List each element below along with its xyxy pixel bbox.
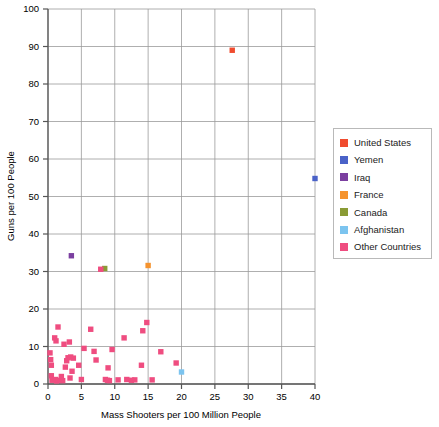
data-point [69,369,74,374]
y-tick-label: 60 [28,153,39,164]
data-point [61,342,66,347]
legend-swatch-icon [340,208,348,216]
data-point [93,357,98,362]
data-point [145,263,150,268]
data-point [63,364,68,369]
legend-swatch-icon [340,191,348,199]
data-point [67,375,72,380]
y-tick-label: 80 [28,78,39,89]
legend-item[interactable]: France [340,186,427,203]
legend-item[interactable]: Iraq [340,169,427,186]
x-tick-label: 40 [310,391,321,402]
legend-swatch-icon [340,139,348,147]
x-tick-label: 0 [45,391,50,402]
scatter-chart: 01020304050607080901000510152025303540 M… [0,0,439,427]
data-point [139,363,144,368]
data-point [149,377,154,382]
data-point [79,377,84,382]
y-tick-label: 40 [28,228,39,239]
legend-item-label: Canada [354,208,387,218]
data-point [230,48,235,53]
data-points [47,48,317,384]
data-point [105,365,110,370]
legend: United StatesYemenIraqFranceCanadaAfghan… [333,128,432,259]
data-point [67,339,72,344]
legend-item-label: Other Countries [354,242,421,252]
axis-ticks [43,9,315,389]
x-tick-label: 15 [143,391,154,402]
y-tick-label: 50 [28,191,39,202]
data-point [69,253,74,258]
x-tick-label: 35 [276,391,287,402]
data-point [107,378,112,383]
data-point [121,335,126,340]
data-point [76,363,81,368]
data-point [179,369,184,374]
data-point [312,176,317,181]
legend-item-label: Yemen [354,155,383,165]
data-point [91,349,96,354]
legend-item-label: Afghanistan [354,225,404,235]
data-point [140,328,145,333]
data-point [53,338,58,343]
data-point [109,347,114,352]
data-point [71,355,76,360]
legend-item-label: France [354,190,384,200]
data-point [88,327,93,332]
data-point [124,377,129,382]
data-point [55,324,60,329]
y-tick-label: 20 [28,303,39,314]
legend-item[interactable]: Other Countries [340,238,427,255]
data-point [49,363,54,368]
legend-swatch-icon [340,156,348,164]
y-tick-label: 100 [23,3,39,14]
legend-item[interactable]: United States [340,134,427,151]
legend-swatch-icon [340,173,348,181]
data-point [47,350,52,355]
data-point [158,349,163,354]
x-tick-label: 10 [109,391,120,402]
y-tick-label: 90 [28,41,39,52]
data-point [132,377,137,382]
legend-item[interactable]: Afghanistan [340,221,427,238]
x-tick-label: 30 [243,391,254,402]
y-tick-label: 0 [34,378,39,389]
legend-item[interactable]: Canada [340,204,427,221]
x-tick-label: 25 [210,391,221,402]
legend-swatch-icon [340,243,348,251]
data-point [144,320,149,325]
y-tick-label: 10 [28,341,39,352]
data-point [115,377,120,382]
x-axis-title: Mass Shooters per 100 Million People [101,409,261,420]
legend-item-label: Iraq [354,173,370,183]
y-tick-label: 70 [28,116,39,127]
legend-item[interactable]: Yemen [340,151,427,168]
legend-swatch-icon [340,226,348,234]
data-point [81,346,86,351]
y-axis-title: Guns per 100 People [5,151,16,241]
data-point [60,378,65,383]
data-point [48,357,53,362]
data-point [173,360,178,365]
x-tick-label: 20 [176,391,187,402]
data-point [98,267,103,272]
y-tick-label: 30 [28,266,39,277]
legend-item-label: United States [354,138,411,148]
x-tick-label: 5 [79,391,84,402]
